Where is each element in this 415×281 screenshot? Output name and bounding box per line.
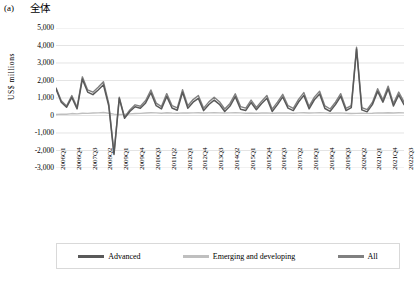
x-axis-tick-label: 2010Q3 xyxy=(154,147,162,170)
x-axis-tick-label: 2012Q1 xyxy=(186,147,194,170)
series-line xyxy=(56,113,404,115)
chart-legend: AdvancedEmerging and developingAll xyxy=(56,243,400,269)
legend-swatch xyxy=(338,255,364,258)
y-axis-tick-labels: 5,0004,0003,0002,0001,0000-1,000-2,000-3… xyxy=(14,28,54,168)
x-axis-tick-label: 2016Q3 xyxy=(280,147,288,170)
chart-title: 全体 xyxy=(30,2,50,14)
x-axis-tick-label: 2013Q3 xyxy=(217,147,225,170)
x-axis-tick-label: 2015Q4 xyxy=(265,147,273,170)
y-axis-tick-label: 5,000 xyxy=(18,24,54,32)
x-axis-tick-label: 2008Q2 xyxy=(106,147,114,170)
x-axis-tick-label: 2014Q2 xyxy=(233,147,241,170)
x-axis-tick-label: 2012Q4 xyxy=(201,147,209,170)
y-axis-tick-label: 4,000 xyxy=(18,42,54,50)
x-axis-tick-label: 2021Q4 xyxy=(391,147,399,170)
panel-label: (a) xyxy=(4,3,14,14)
x-axis-tick-label: 2017Q2 xyxy=(296,147,304,170)
legend-label: All xyxy=(368,252,378,261)
x-axis-tick-label: 2020Q2 xyxy=(360,147,368,170)
x-axis-tick-label: 2006Q4 xyxy=(75,147,83,170)
x-axis-tick-label: 2015Q1 xyxy=(249,147,257,170)
legend-label: Emerging and developing xyxy=(213,252,296,261)
x-axis-tick-label: 2009Q1 xyxy=(122,147,130,170)
x-axis-tick-labels: 2006Q12006Q42007Q32008Q22009Q12009Q42010… xyxy=(56,168,404,220)
x-axis-tick-label: 2009Q4 xyxy=(138,147,146,170)
x-axis-tick-label: 2018Q1 xyxy=(312,147,320,170)
x-axis-tick-label: 2022Q3 xyxy=(407,147,415,170)
y-axis-tick-label: 2,000 xyxy=(18,77,54,85)
y-axis-tick-label: -2,000 xyxy=(18,147,54,155)
x-axis-tick-label: 2011Q2 xyxy=(170,148,178,170)
x-axis-tick-label: 2019Q3 xyxy=(344,147,352,170)
legend-item[interactable]: All xyxy=(338,252,378,261)
x-axis-tick-label: 2007Q3 xyxy=(91,147,99,170)
legend-swatch xyxy=(183,255,209,258)
x-axis-tick-label: 2018Q4 xyxy=(328,147,336,170)
y-axis-tick-label: 3,000 xyxy=(18,59,54,67)
y-axis-tick-label: -1,000 xyxy=(18,129,54,137)
legend-swatch xyxy=(78,255,104,258)
y-axis-tick-label: 0 xyxy=(18,112,54,120)
y-axis-tick-label: 1,000 xyxy=(18,94,54,102)
x-axis-tick-label: 2006Q1 xyxy=(59,147,67,170)
legend-item[interactable]: Advanced xyxy=(78,252,140,261)
x-axis-tick-label: 2021Q1 xyxy=(375,147,383,170)
series-line xyxy=(56,49,404,155)
legend-item[interactable]: Emerging and developing xyxy=(183,252,296,261)
legend-label: Advanced xyxy=(108,252,140,261)
y-axis-tick-label: -3,000 xyxy=(18,164,54,172)
